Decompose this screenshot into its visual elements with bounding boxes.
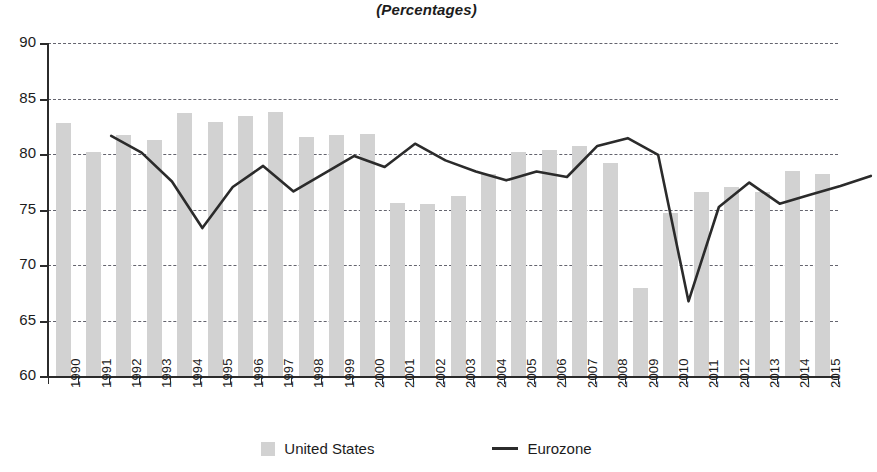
x-tick-mark-2011 <box>686 377 687 384</box>
chart-legend: United States Eurozone <box>0 440 853 457</box>
eurozone-polyline <box>111 136 871 301</box>
x-tick-mark-1999 <box>321 377 322 384</box>
x-tick-label-1993: 1993 <box>160 358 173 388</box>
x-tick-mark-1994 <box>170 377 171 384</box>
y-tick-label-80: 80 <box>6 146 36 160</box>
x-tick-mark-2014 <box>777 377 778 384</box>
x-tick-label-1997: 1997 <box>282 358 295 388</box>
x-tick-mark-1998 <box>291 377 292 384</box>
legend-item-united-states: United States <box>261 440 374 457</box>
y-tick-label-90: 90 <box>6 35 36 49</box>
x-tick-mark-1992 <box>109 377 110 384</box>
x-tick-mark-2003 <box>443 377 444 384</box>
y-tick-mark-65 <box>40 321 48 323</box>
y-tick-mark-80 <box>40 154 48 156</box>
x-tick-label-2003: 2003 <box>464 358 477 388</box>
x-tick-label-2002: 2002 <box>434 358 447 388</box>
x-tick-label-2014: 2014 <box>798 358 811 388</box>
x-tick-label-1996: 1996 <box>252 358 265 388</box>
x-tick-mark-1990 <box>48 377 49 384</box>
x-tick-label-1995: 1995 <box>221 358 234 388</box>
y-tick-mark-75 <box>40 210 48 212</box>
x-tick-label-2000: 2000 <box>373 358 386 388</box>
x-tick-label-2007: 2007 <box>586 358 599 388</box>
x-tick-mark-2013 <box>747 377 748 384</box>
x-tick-mark-1991 <box>78 377 79 384</box>
x-tick-mark-2001 <box>382 377 383 384</box>
legend-label-eurozone: Eurozone <box>527 440 591 457</box>
x-tick-mark-2002 <box>413 377 414 384</box>
plot-area <box>48 43 838 376</box>
x-tick-mark-2007 <box>565 377 566 384</box>
x-tick-mark-1993 <box>139 377 140 384</box>
x-tick-label-1990: 1990 <box>69 358 82 388</box>
y-tick-mark-60 <box>40 376 48 378</box>
x-tick-label-2012: 2012 <box>738 358 751 388</box>
y-tick-mark-90 <box>40 43 48 45</box>
x-tick-label-2001: 2001 <box>403 358 416 388</box>
x-tick-mark-2000 <box>352 377 353 384</box>
bar-1990 <box>56 123 71 376</box>
x-tick-mark-2005 <box>504 377 505 384</box>
y-tick-mark-70 <box>40 265 48 267</box>
x-tick-mark-2008 <box>595 377 596 384</box>
chart-title: (Percentages) <box>0 0 853 20</box>
x-tick-mark-2004 <box>473 377 474 384</box>
line-series-eurozone <box>96 86 877 419</box>
x-tick-mark-1995 <box>200 377 201 384</box>
line-swatch-icon <box>492 447 518 450</box>
x-tick-mark-2009 <box>625 377 626 384</box>
y-tick-label-60: 60 <box>6 368 36 382</box>
legend-label-united-states: United States <box>284 440 374 457</box>
gridline-90 <box>48 43 838 44</box>
x-tick-label-1998: 1998 <box>312 358 325 388</box>
x-tick-mark-end <box>838 377 839 384</box>
legend-item-eurozone: Eurozone <box>492 440 591 457</box>
x-tick-label-1992: 1992 <box>130 358 143 388</box>
x-tick-label-2013: 2013 <box>768 358 781 388</box>
x-tick-label-2005: 2005 <box>525 358 538 388</box>
x-tick-label-2009: 2009 <box>647 358 660 388</box>
x-tick-label-1994: 1994 <box>191 358 204 388</box>
x-tick-label-2010: 2010 <box>677 358 690 388</box>
x-tick-mark-1997 <box>261 377 262 384</box>
bar-swatch-icon <box>261 442 275 456</box>
x-tick-mark-1996 <box>230 377 231 384</box>
y-tick-label-70: 70 <box>6 257 36 271</box>
y-tick-label-75: 75 <box>6 202 36 216</box>
x-tick-label-2006: 2006 <box>555 358 568 388</box>
x-tick-label-2011: 2011 <box>707 359 720 388</box>
x-tick-mark-2010 <box>656 377 657 384</box>
x-tick-mark-2006 <box>534 377 535 384</box>
x-tick-label-2008: 2008 <box>616 358 629 388</box>
x-tick-label-2004: 2004 <box>495 358 508 388</box>
x-tick-label-1999: 1999 <box>343 358 356 388</box>
x-tick-label-2015: 2015 <box>829 358 842 388</box>
x-tick-mark-2015 <box>808 377 809 384</box>
y-tick-label-85: 85 <box>6 91 36 105</box>
y-tick-mark-85 <box>40 99 48 101</box>
x-tick-mark-2012 <box>716 377 717 384</box>
x-tick-label-1991: 1991 <box>100 358 113 388</box>
y-tick-label-65: 65 <box>6 313 36 327</box>
